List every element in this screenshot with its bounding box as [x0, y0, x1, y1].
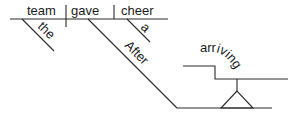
verb-word: gave [71, 3, 99, 18]
diagram-svg: team gave cheer the a After arriving [0, 0, 301, 114]
subject-modifier-word: the [35, 19, 58, 42]
object-word: cheer [121, 3, 154, 18]
preposition-slant [88, 19, 177, 108]
preposition-word: After [122, 38, 152, 68]
subject-word: team [27, 3, 56, 18]
sentence-diagram: team gave cheer the a After arriving [0, 0, 301, 114]
object-modifier-word: a [138, 20, 154, 36]
pedestal-triangle [221, 91, 253, 108]
